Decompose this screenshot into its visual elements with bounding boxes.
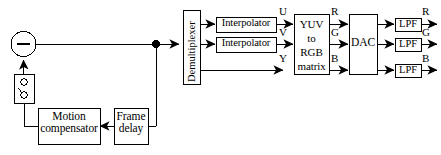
switch-box: [14, 74, 34, 103]
switch-upper-contact-icon: [21, 79, 27, 85]
interpolator-u-box: [216, 17, 276, 32]
interpolator-v-box: [216, 37, 276, 52]
motion-compensator-box: [38, 108, 100, 144]
diagram-canvas: [0, 0, 441, 155]
frame-delay-box: [114, 108, 148, 144]
line-switch-to-summer: [24, 60, 25, 74]
block-diagram: Motion compensator Frame delay Demultipl…: [0, 0, 441, 155]
lpf-g-box: [395, 38, 421, 51]
lpf-b-box: [395, 64, 421, 77]
dac-box: [349, 14, 377, 74]
yuv-to-rgb-matrix-box: [294, 14, 329, 74]
junction-dot: [152, 40, 160, 48]
demultiplexer-box: [183, 10, 200, 84]
switch-lower-contact-icon: [21, 92, 27, 98]
lpf-r-box: [395, 18, 421, 31]
